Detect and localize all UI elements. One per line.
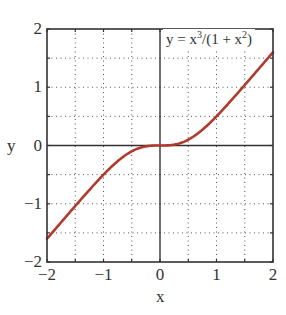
function-label: y = x3/(1 + x2) — [163, 29, 255, 49]
y-tick-label: −1 — [24, 195, 42, 212]
y-tick-label: 1 — [34, 78, 43, 95]
x-tick-label: 2 — [269, 266, 278, 283]
y-axis-label: y — [7, 137, 16, 154]
y-tick-label: 2 — [34, 20, 43, 37]
x-axis-label: x — [156, 288, 165, 305]
x-tick-label: −2 — [38, 266, 56, 283]
legend-prefix: y = x — [166, 31, 197, 47]
x-tick-label: 0 — [156, 266, 165, 283]
x-tick-label: 1 — [212, 266, 221, 283]
y-tick-label: 0 — [34, 137, 43, 154]
legend-mid: /(1 + x — [202, 31, 242, 47]
x-tick-label: −1 — [94, 266, 112, 283]
legend-suffix: ) — [247, 31, 252, 47]
